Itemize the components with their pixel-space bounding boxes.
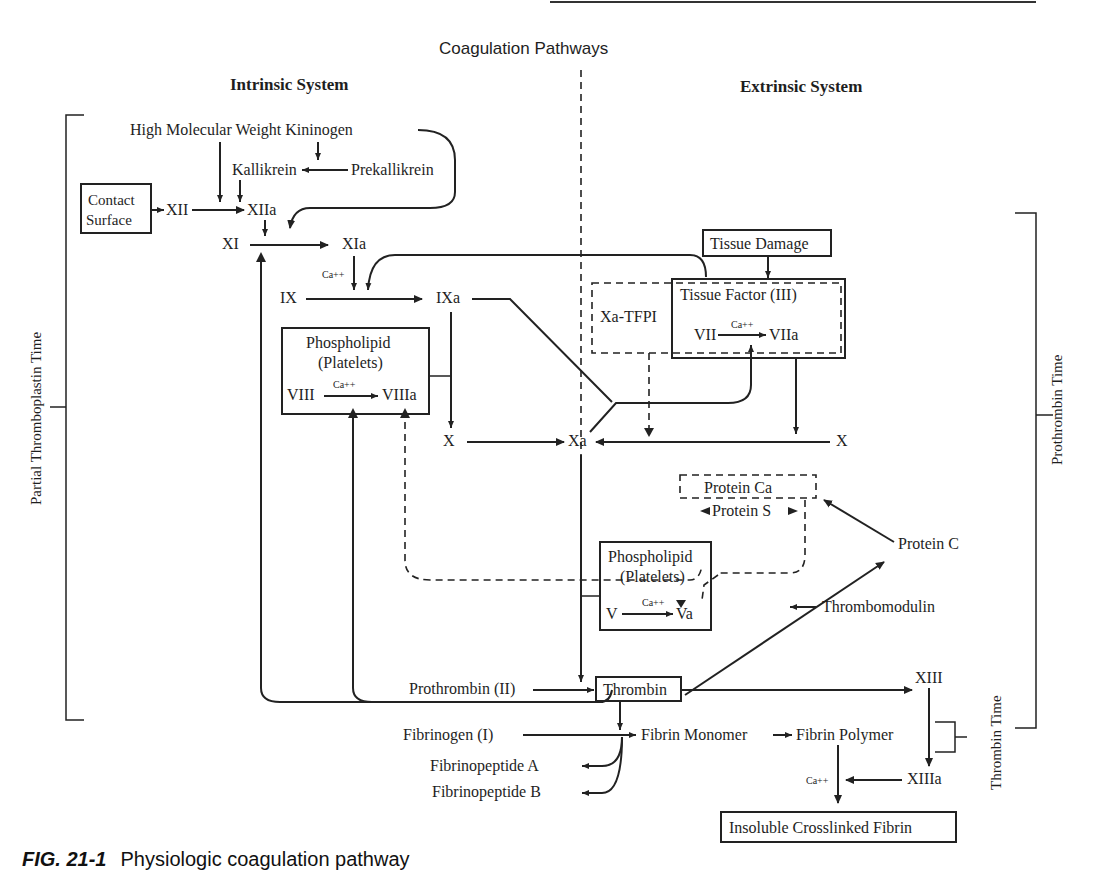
node-xii: XII: [166, 201, 188, 218]
node-ixa: IXa: [436, 289, 460, 306]
diagram-title: Coagulation Pathways: [439, 39, 608, 58]
intrinsic-system-heading: Intrinsic System: [230, 75, 349, 94]
node-viia: VIIa: [769, 326, 798, 343]
xa-tfpi-label: Xa-TFPI: [600, 308, 657, 325]
svg-text:Ca++: Ca++: [333, 379, 356, 390]
tissue-factor-label: Tissue Factor (III): [680, 286, 797, 304]
svg-text:Phospholipid: Phospholipid: [608, 548, 692, 566]
node-xiiia: XIIIa: [907, 770, 942, 787]
node-thrombomodulin: Thrombomodulin: [822, 598, 935, 615]
svg-text:Ca++: Ca++: [731, 319, 754, 330]
thrombin-to-protein-c: [685, 562, 884, 695]
ptt-label: Partial Thromboplastin Time: [28, 332, 44, 505]
pt-bracket: [1015, 213, 1036, 728]
node-xiii: XIII: [915, 669, 943, 686]
node-v: V: [606, 605, 618, 622]
figure-caption-text: Physiologic coagulation pathway: [120, 848, 409, 870]
node-fibrinogen: Fibrinogen (I): [403, 726, 493, 744]
node-fibrin-polymer: Fibrin Polymer: [796, 726, 894, 744]
node-viii: VIII: [287, 386, 315, 403]
pt-label: Prothrombin Time: [1049, 354, 1065, 465]
node-insoluble-fibrin: Insoluble Crosslinked Fibrin: [729, 819, 912, 836]
node-xi: XI: [222, 235, 239, 252]
node-protein-c: Protein C: [898, 535, 959, 552]
thrombin-feedback-viii: [353, 410, 372, 702]
node-fibrinopeptide-b: Fibrinopeptide B: [432, 783, 541, 801]
tissue-damage-label: Tissue Damage: [710, 235, 809, 253]
svg-text:(Platelets): (Platelets): [318, 354, 383, 372]
hmwk-to-xi-arrow: [290, 130, 455, 228]
node-xa: Xa: [568, 432, 587, 449]
extrinsic-system-heading: Extrinsic System: [740, 77, 862, 96]
node-ix: IX: [280, 289, 297, 306]
calcium-label: Ca++: [322, 269, 345, 280]
contact-surface-label: Contact: [88, 192, 135, 208]
thrombin-feedback-xi: [261, 255, 612, 702]
tt-bracket: [935, 722, 955, 752]
svg-text:Surface: Surface: [86, 212, 132, 228]
node-x-intrinsic: X: [443, 432, 455, 449]
node-hmwk: High Molecular Weight Kininogen: [130, 121, 353, 139]
node-va: Va: [676, 605, 693, 622]
node-x-extrinsic: X: [836, 432, 848, 449]
figure-number: FIG. 21-1: [22, 848, 106, 870]
node-vii: VII: [694, 326, 716, 343]
svg-text:Phospholipid: Phospholipid: [306, 334, 390, 352]
node-viiia: VIIIa: [382, 386, 417, 403]
viia-to-ix-arrow: [368, 255, 706, 290]
node-fibrinopeptide-a: Fibrinopeptide A: [430, 757, 539, 775]
node-xiia: XIIa: [247, 201, 276, 218]
node-protein-ca: Protein Ca: [704, 479, 772, 496]
figure-caption: FIG. 21-1Physiologic coagulation pathway: [22, 848, 410, 871]
node-protein-s: Protein S: [712, 502, 771, 519]
node-prothrombin: Prothrombin (II): [409, 680, 515, 698]
svg-text:(Platelets): (Platelets): [620, 568, 685, 586]
svg-text:Ca++: Ca++: [642, 597, 665, 608]
node-thrombin: Thrombin: [603, 681, 667, 698]
node-fibrin-monomer: Fibrin Monomer: [641, 726, 748, 743]
node-xia: XIa: [342, 235, 366, 252]
node-kallikrein: Kallikrein: [232, 161, 297, 178]
tt-label: Thrombin Time: [988, 695, 1004, 790]
node-prekallikrein: Prekallikrein: [351, 161, 434, 178]
svg-text:Ca++: Ca++: [806, 775, 829, 786]
